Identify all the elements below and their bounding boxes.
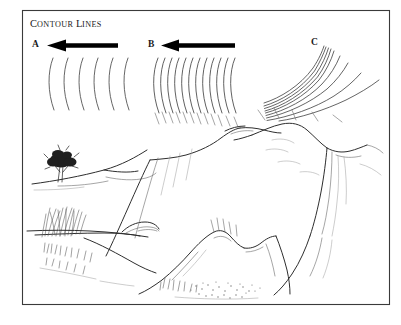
panel-a-label: A [32,39,39,49]
panel-c-label: C [311,37,318,47]
title-word-lines: INES [82,20,102,29]
figure-title: C ONTOUR L INES [30,18,102,29]
panel-b-label: B [148,39,155,49]
figure-canvas: C ONTOUR L INES A B [0,0,401,325]
figure-frame [23,11,390,305]
title-word-contour: ONTOUR [37,20,74,29]
contour-lines-figure: C ONTOUR L INES A B [0,0,401,325]
